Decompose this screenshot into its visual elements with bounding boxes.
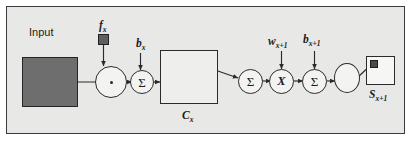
sigma-glyph: Σ — [311, 75, 319, 88]
filter-label-sub: x — [103, 25, 107, 34]
bias-next-label-sub: x+1 — [309, 39, 321, 48]
multiply-weight: X — [269, 69, 294, 94]
summation-pool: Σ — [238, 69, 263, 94]
weight-next-label-sub: x+1 — [276, 41, 288, 50]
filter-label: fx — [99, 20, 107, 34]
input-label: Input — [29, 27, 53, 38]
sigma-glyph: Σ — [138, 76, 146, 89]
convolution-feature-map-grid — [160, 50, 218, 104]
filter-kernel-square — [98, 34, 109, 45]
feature-map-label-base: C — [182, 109, 190, 121]
input-feature-map — [22, 57, 78, 107]
feature-map-label-sub: x — [190, 115, 194, 124]
bias-conv-label: bx — [136, 38, 146, 52]
weight-next-label-base: w — [268, 35, 276, 47]
bias-next-label: bx+1 — [303, 34, 321, 48]
convolution-dot-icon — [110, 81, 113, 84]
times-glyph: X — [277, 75, 285, 88]
output-kernel-square — [370, 60, 378, 68]
sigmoid-activation — [334, 63, 360, 93]
sigma-glyph: Σ — [247, 75, 255, 88]
figure-canvas: Σ Σ X Σ Input fx bx Cx wx+1 bx+1 Sx+1 — [0, 0, 413, 142]
output-map-label-sub: x+1 — [375, 94, 387, 103]
feature-map-label: Cx — [182, 110, 193, 124]
summation-next-bias: Σ — [302, 69, 327, 94]
convolution-operator — [95, 66, 127, 98]
bias-conv-label-sub: x — [142, 43, 146, 52]
output-map-label: Sx+1 — [369, 89, 387, 103]
weight-next-label: wx+1 — [268, 36, 287, 50]
summation-conv-bias: Σ — [130, 70, 154, 94]
